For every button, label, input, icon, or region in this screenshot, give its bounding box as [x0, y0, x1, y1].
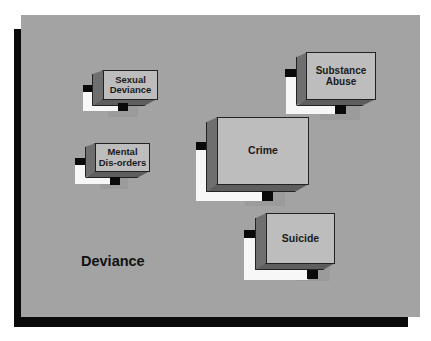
connector-tab: [110, 177, 120, 185]
node-label: Suicide: [266, 213, 335, 264]
node-label: Sexual Deviance: [103, 70, 158, 100]
connector-tab: [196, 142, 207, 150]
connector-tab: [83, 85, 93, 92]
connector-tab: [262, 191, 273, 201]
connector-tab: [335, 105, 346, 114]
connector-tab: [307, 270, 318, 279]
connector-tab: [244, 230, 255, 238]
connector-tab: [285, 69, 296, 77]
node-label: Substance Abuse: [306, 52, 376, 100]
diagram-title: Deviance: [81, 253, 145, 269]
node-label: Crime: [217, 117, 309, 185]
connector-tab: [75, 158, 85, 165]
connector-tab: [118, 103, 128, 111]
node-label: Mental Dis-orders: [95, 143, 150, 172]
